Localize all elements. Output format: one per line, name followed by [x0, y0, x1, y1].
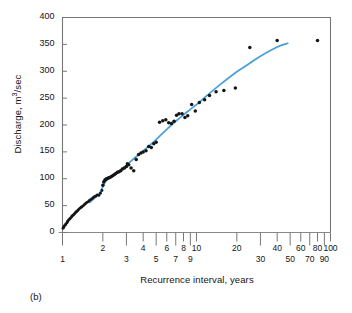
y-tick-label: 100 [27, 172, 55, 182]
x-tick-label: 10 [192, 243, 201, 253]
x-tick-label: 100 [323, 243, 337, 253]
figure-panel-b: Discharge, m3/sec Recurrence interval, y… [0, 0, 352, 313]
x-tick-label: 50 [285, 254, 294, 264]
x-tick-label: 80 [313, 243, 322, 253]
data-points [62, 39, 320, 230]
y-axis-title: Discharge, m3/sec [11, 39, 23, 189]
y-tick-label: 150 [27, 145, 55, 155]
x-tick-label: 20 [232, 243, 241, 253]
x-tick-label: 5 [154, 254, 159, 264]
y-tick-label: 300 [27, 65, 55, 75]
x-tick-label: 60 [296, 243, 305, 253]
y-axis-title-exponent: 3 [11, 92, 18, 96]
y-tick-label: 250 [27, 92, 55, 102]
x-tick-label: 6 [164, 243, 169, 253]
y-axis-title-suffix: /sec [12, 75, 23, 93]
axes-frame [59, 18, 331, 233]
y-axis-title-prefix: Discharge, m [12, 96, 23, 153]
x-tick-label: 90 [320, 254, 329, 264]
y-axis-ticks [63, 18, 68, 233]
y-tick-label: 0 [27, 226, 55, 236]
x-tick-label: 30 [256, 254, 265, 264]
x-tick-label: 40 [272, 243, 281, 253]
y-tick-label: 200 [27, 119, 55, 129]
x-tick-label: 3 [124, 254, 129, 264]
x-tick-label: 1 [60, 254, 65, 264]
x-tick-label: 4 [141, 243, 146, 253]
panel-caption: (b) [30, 291, 42, 302]
fit-line [90, 43, 288, 202]
y-tick-label: 400 [27, 11, 55, 21]
y-tick-label: 50 [27, 199, 55, 209]
x-tick-label: 2 [100, 243, 105, 253]
x-tick-label: 7 [173, 254, 178, 264]
x-tick-label: 70 [305, 254, 314, 264]
x-tick-label: 8 [181, 243, 186, 253]
x-tick-label: 9 [188, 254, 193, 264]
y-tick-label: 350 [27, 38, 55, 48]
x-axis-title: Recurrence interval, years [62, 274, 332, 285]
